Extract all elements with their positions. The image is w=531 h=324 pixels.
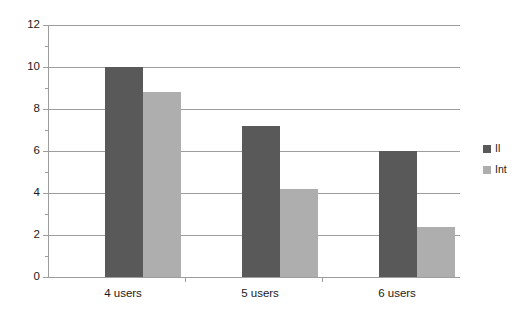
y-axis-tick-label: 12 (6, 19, 40, 31)
x-axis-line (48, 277, 460, 278)
y-axis-tick-label: 0 (6, 271, 40, 283)
legend-label: Il (495, 143, 500, 154)
legend-swatch-icon (483, 166, 491, 174)
bar-series-a-4-users (105, 67, 143, 277)
y-axis-tick-label: 2 (6, 229, 40, 241)
chart-legend: Il Int (483, 143, 529, 185)
x-axis-category-label: 5 users (205, 288, 315, 300)
bar-chart: 12 10 8 6 4 2 0 (0, 0, 531, 324)
bar-series-a-6-users (379, 151, 417, 277)
legend-entry-series-b: Int (483, 164, 529, 175)
x-axis-tick (185, 277, 186, 282)
y-axis-tick-label: 8 (6, 103, 40, 115)
x-axis-category-label: 4 users (68, 288, 178, 300)
legend-label: Int (495, 164, 507, 175)
y-axis-tick-label: 4 (6, 187, 40, 199)
bar-series-b-4-users (143, 92, 181, 277)
bar-series-b-5-users (280, 189, 318, 277)
y-axis-tick-label: 10 (6, 61, 40, 73)
y-axis-tick-label: 6 (6, 145, 40, 157)
y-axis-labels: 12 10 8 6 4 2 0 (0, 0, 40, 324)
gridline-12 (48, 25, 460, 26)
legend-entry-series-a: Il (483, 143, 529, 154)
plot-area (48, 25, 460, 277)
bar-series-b-6-users (417, 227, 455, 277)
legend-swatch-icon (483, 145, 491, 153)
bar-series-a-5-users (242, 126, 280, 277)
x-axis-category-label: 6 users (342, 288, 452, 300)
x-axis-tick (322, 277, 323, 282)
